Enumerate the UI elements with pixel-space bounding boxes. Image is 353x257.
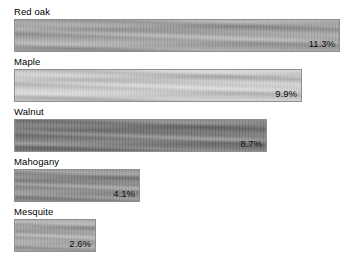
bar-track-maple: 9.9% xyxy=(14,69,353,102)
bar-maple[interactable]: 9.9% xyxy=(14,69,302,102)
bar-label-maple: Maple xyxy=(14,56,353,69)
wood-species-bar-chart: Red oak 11.3% Maple 9.9% Walnut xyxy=(0,0,353,257)
wood-grain-fiber-icon xyxy=(15,70,301,101)
bar-group-mesquite: Mesquite 2.6% xyxy=(14,206,353,252)
wood-grain-shade-icon xyxy=(15,120,266,151)
bar-value-mesquite: 2.6% xyxy=(69,238,95,251)
bar-mesquite[interactable]: 2.6% xyxy=(14,219,96,252)
wood-grain-streak-icon xyxy=(15,20,339,51)
bar-value-red-oak: 11.3% xyxy=(309,38,339,51)
bar-group-maple: Maple 9.9% xyxy=(14,56,353,102)
bar-walnut[interactable]: 8.7% xyxy=(14,119,267,152)
wood-grain-streak-icon xyxy=(15,70,301,101)
bar-label-walnut: Walnut xyxy=(14,106,353,119)
bar-label-red-oak: Red oak xyxy=(14,6,353,19)
bar-group-red-oak: Red oak 11.3% xyxy=(14,6,353,52)
bar-value-walnut: 8.7% xyxy=(240,138,266,151)
wood-grain-shade-icon xyxy=(15,70,301,101)
wood-grain-shade-icon xyxy=(15,20,339,51)
bar-value-maple: 9.9% xyxy=(275,88,301,101)
wood-grain-fiber-icon xyxy=(15,120,266,151)
bar-track-mahogany: 4.1% xyxy=(14,169,353,202)
bar-track-red-oak: 11.3% xyxy=(14,19,353,52)
wood-grain-streak-icon xyxy=(15,120,266,151)
bar-red-oak[interactable]: 11.3% xyxy=(14,19,340,52)
bar-value-mahogany: 4.1% xyxy=(113,188,139,201)
bar-track-mesquite: 2.6% xyxy=(14,219,353,252)
bar-label-mesquite: Mesquite xyxy=(14,206,353,219)
bar-group-mahogany: Mahogany 4.1% xyxy=(14,156,353,202)
bar-label-mahogany: Mahogany xyxy=(14,156,353,169)
bar-track-walnut: 8.7% xyxy=(14,119,353,152)
wood-grain-fiber-icon xyxy=(15,20,339,51)
bar-mahogany[interactable]: 4.1% xyxy=(14,169,140,202)
bar-group-walnut: Walnut 8.7% xyxy=(14,106,353,152)
